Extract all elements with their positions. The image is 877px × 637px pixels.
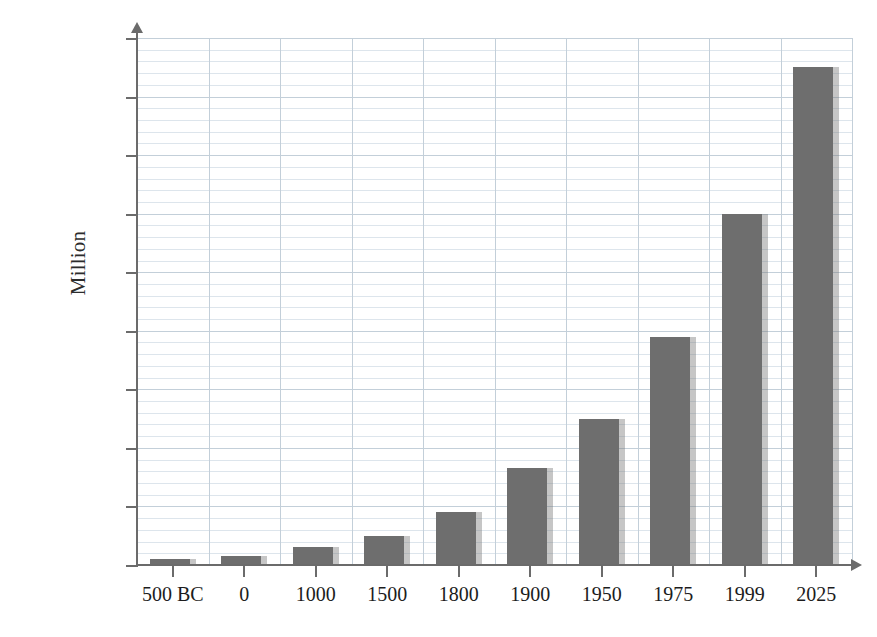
plot-area [137,38,852,565]
bar-1900[interactable] [507,468,547,565]
gridline-vertical [495,38,496,565]
x-tick [458,565,460,577]
y-tick [126,97,138,99]
y-tick [126,272,138,274]
y-tick [126,214,138,216]
gridline-vertical [709,38,710,565]
y-tick [126,331,138,333]
y-tick [126,38,138,40]
gridline-vertical [209,38,210,565]
y-axis-title: Million [58,203,98,323]
y-axis-line [136,30,138,567]
x-tick-label-2025: 2025 [756,583,876,606]
x-tick [243,565,245,577]
gridline-vertical [566,38,567,565]
y-tick [126,448,138,450]
gridline-vertical [638,38,639,565]
x-tick [744,565,746,577]
x-tick [672,565,674,577]
gridline-vertical [781,38,782,565]
y-tick [126,389,138,391]
bar-1950[interactable] [579,419,619,565]
bar-1975[interactable] [650,337,690,565]
x-tick [386,565,388,577]
bar-1500[interactable] [364,536,404,565]
x-tick [601,565,603,577]
gridline-vertical [280,38,281,565]
gridline-vertical [852,38,853,565]
bar-1999[interactable] [722,214,762,565]
x-tick [172,565,174,577]
x-tick [315,565,317,577]
x-tick [815,565,817,577]
y-tick [126,506,138,508]
y-tick [126,155,138,157]
gridline-vertical [352,38,353,565]
population-bar-chart: Million 01000200030004000500060007000800… [0,0,877,637]
x-tick [529,565,531,577]
bar-2025[interactable] [793,67,833,565]
x-axis-arrow-icon [851,559,862,571]
gridline-vertical [423,38,424,565]
bar-1000[interactable] [293,547,333,565]
bar-1800[interactable] [436,512,476,565]
